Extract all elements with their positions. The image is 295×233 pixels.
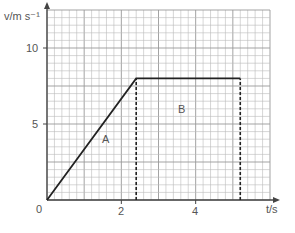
x-tick-4-label: 4: [192, 205, 198, 217]
y-axis-label: v/m s⁻¹: [4, 10, 40, 22]
x-tick-2-label: 2: [118, 205, 124, 217]
y-tick-5-label: 5: [32, 118, 38, 130]
origin-label: 0: [36, 203, 42, 215]
region-a-label: A: [102, 133, 110, 145]
y-axis-arrow-icon: [44, 2, 50, 9]
y-tick-10-label: 10: [26, 42, 38, 54]
plot-area: [43, 2, 280, 204]
x-axis-label: t/s: [266, 203, 278, 215]
grid: [47, 10, 270, 200]
velocity-time-graph: v/m s⁻¹ t/s 0 2 4 5 10 A B: [0, 0, 295, 233]
region-b-label: B: [178, 103, 185, 115]
